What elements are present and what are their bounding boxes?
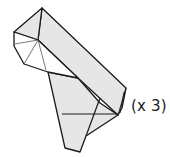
repeat-count-label: (x 3) bbox=[131, 97, 167, 115]
origami-diagram bbox=[0, 0, 170, 157]
